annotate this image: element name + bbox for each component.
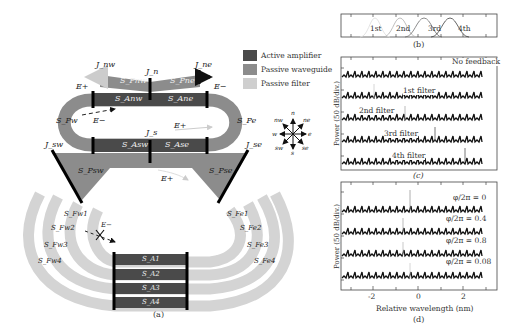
label-s-pse: S_Pse xyxy=(209,167,233,175)
label-phi-0.8: φ/2π = 0.8 xyxy=(446,237,486,245)
legend-label-filter: Passive filter xyxy=(261,79,310,88)
trace-phi-0.4 xyxy=(342,228,482,234)
caption-a: (a) xyxy=(153,311,164,319)
trace-no-feedback xyxy=(342,71,482,77)
legend-swatch-filter xyxy=(243,78,257,89)
label-e-minus-top: E− xyxy=(214,83,227,91)
label-s-a4: S_A4 xyxy=(142,299,160,306)
label-junction-s: J_s xyxy=(146,129,157,137)
label-3rd-filter: 3rd filter xyxy=(384,130,418,138)
label-e-plus-ring: E+ xyxy=(174,122,187,130)
xtick-2: 2 xyxy=(461,293,466,301)
compass-sw: sw xyxy=(275,145,283,151)
label-b-1st: 1st xyxy=(370,25,382,33)
label-s-fw3: S_Fw3 xyxy=(44,242,68,249)
label-b-2nd: 2nd xyxy=(396,25,410,33)
trace-phi-0.08 xyxy=(342,272,482,278)
label-s-a1: S_A1 xyxy=(142,256,160,263)
label-s-fe1: S_Fe1 xyxy=(227,211,248,218)
trace-phi-0 xyxy=(342,206,482,212)
label-s-fe3: S_Fe3 xyxy=(247,242,268,249)
label-junction-nw: J_nw xyxy=(96,61,115,69)
label-s-asw: S_Asw xyxy=(122,141,148,149)
trace-phi-0.8 xyxy=(342,250,482,256)
label-s-pe: S_Pe xyxy=(237,117,256,125)
label-s-fw1: S_Fw1 xyxy=(64,211,88,218)
label-b-3rd: 3rd xyxy=(428,25,441,33)
label-s-ane: S_Ane xyxy=(168,95,193,103)
label-phi-0.4: φ/2π = 0.4 xyxy=(446,215,486,223)
panel-b-filter-spectra xyxy=(341,14,497,37)
caption-b: (b) xyxy=(413,41,424,49)
label-4th-filter: 4th filter xyxy=(392,152,425,160)
compass-s: s xyxy=(291,150,294,156)
label-e-plus-top: E+ xyxy=(76,83,89,91)
caption-c: (c) xyxy=(413,172,424,180)
ylabel-d: Power (50 dB/div.) xyxy=(334,197,341,277)
main-ring-passive xyxy=(64,100,236,145)
label-junction-ne: J_ne xyxy=(195,61,212,69)
label-s-fw2: S_Fw2 xyxy=(51,225,75,232)
compass-e: e xyxy=(308,131,312,137)
label-s-pw: S_Pw xyxy=(56,117,78,125)
label-junction-n: J_n xyxy=(146,68,158,76)
label-e-plus-lower: E+ xyxy=(161,175,174,183)
label-1st-filter: 1st filter xyxy=(403,87,435,95)
label-b-4th: 4th xyxy=(458,25,471,33)
compass-nw: nw xyxy=(274,117,283,123)
label-s-a3: S_A3 xyxy=(142,285,160,292)
compass-se: se xyxy=(302,145,309,151)
caption-d: (d) xyxy=(413,316,424,324)
compass-n: n xyxy=(291,110,295,116)
legend-swatch-passive xyxy=(243,64,257,75)
label-2nd-filter: 2nd filter xyxy=(359,107,394,115)
label-s-ase: S_Ase xyxy=(165,141,189,149)
xtick-0: 0 xyxy=(416,293,421,301)
compass-ne: ne xyxy=(303,117,310,123)
xtick-neg2: -2 xyxy=(368,293,375,301)
legend-swatch-active xyxy=(243,50,257,61)
label-phi-0: φ/2π = 0 xyxy=(453,194,486,202)
label-s-a2: S_A2 xyxy=(142,271,160,278)
label-s-fe4: S_Fe4 xyxy=(254,258,275,265)
xlabel-d: Relative wavelength (nm) xyxy=(376,305,474,313)
label-e-minus-lower: E− xyxy=(101,222,112,229)
legend-label-passive: Passive waveguide xyxy=(261,65,332,74)
legend-label-active: Active amplifier xyxy=(261,51,321,60)
label-s-anw: S_Anw xyxy=(115,95,142,103)
label-phi-0.08: φ/2π = 0.08 xyxy=(446,258,491,266)
label-s-fe2: S_Fe2 xyxy=(240,225,261,232)
label-junction-sw: J_sw xyxy=(45,141,63,149)
label-s-fw4: S_Fw4 xyxy=(38,258,62,265)
label-no-feedback: No feedback xyxy=(452,58,500,66)
label-s-pne: S_Pne xyxy=(170,77,195,85)
label-s-pnw: S_Pnw xyxy=(120,77,147,85)
e-minus-arrow xyxy=(82,109,115,115)
label-e-minus-ring: E− xyxy=(93,117,106,125)
label-s-psw: S_Psw xyxy=(78,167,104,175)
label-junction-se: J_se xyxy=(246,141,262,149)
compass-w: w xyxy=(272,131,277,137)
ylabel-c: Power (50 dB/div.) xyxy=(334,74,341,154)
